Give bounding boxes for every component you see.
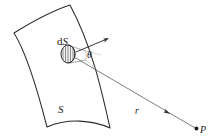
diagram-canvas: dS θ S r P [0, 0, 211, 140]
label-surface-S: S [58, 104, 64, 115]
field-point-marker [195, 127, 199, 131]
surface-element-illustration [0, 0, 211, 140]
label-theta: θ [87, 51, 92, 61]
label-dS-symbol: S [63, 35, 69, 47]
label-dS: dS [57, 36, 68, 47]
label-point-P: P [200, 125, 206, 135]
area-element-dS [61, 44, 75, 64]
label-distance-r: r [135, 107, 139, 117]
